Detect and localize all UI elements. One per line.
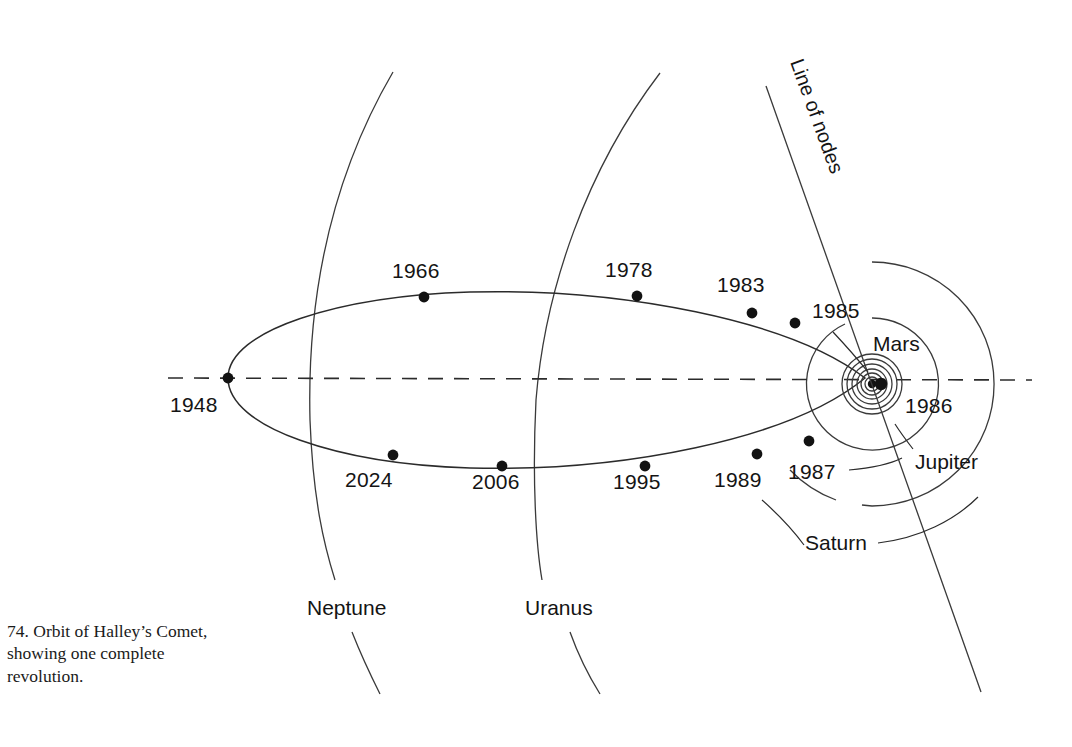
- figure-halley-orbit: 1948 1966 1978 1983 1985 1986 1987 1989 …: [0, 0, 1072, 747]
- comet-marker-1986: [875, 378, 887, 390]
- year-label-1966: 1966: [392, 259, 440, 282]
- leader-line-1987: [849, 458, 902, 470]
- year-label-1983: 1983: [717, 273, 765, 296]
- leader-line-1985: [833, 332, 868, 372]
- year-label-1948: 1948: [170, 393, 218, 416]
- comet-marker-1966: [419, 292, 430, 303]
- orbit-arc-uranus-lower: [570, 632, 600, 694]
- leader-line-1989: [762, 500, 804, 545]
- year-label-1987: 1987: [788, 460, 836, 483]
- comet-marker-1978: [632, 291, 643, 302]
- line-of-nodes-label: Line of nodes: [786, 56, 848, 176]
- year-label-2006: 2006: [472, 470, 520, 493]
- planet-label-jupiter: Jupiter: [915, 450, 978, 473]
- year-label-2024: 2024: [345, 468, 393, 491]
- orbit-arc-neptune: [310, 72, 393, 580]
- comet-marker-1948: [223, 373, 234, 384]
- year-label-1995: 1995: [613, 470, 661, 493]
- planet-label-neptune: Neptune: [307, 596, 386, 619]
- planet-label-uranus: Uranus: [525, 596, 593, 619]
- year-label-1978: 1978: [605, 258, 653, 281]
- orbit-arc-neptune-lower: [352, 632, 380, 694]
- orbit-arc-uranus: [534, 73, 660, 580]
- year-label-1985: 1985: [812, 299, 860, 322]
- line-of-apsides: [168, 378, 1032, 380]
- planet-label-saturn: Saturn: [805, 531, 867, 554]
- caption-line-3: revolution.: [7, 665, 267, 687]
- comet-marker-1985: [790, 318, 801, 329]
- line-of-nodes: [766, 86, 981, 692]
- caption-line-1: 74. Orbit of Halley’s Comet,: [7, 620, 267, 642]
- comet-marker-1983: [747, 308, 758, 319]
- caption-line-2: showing one complete: [7, 642, 267, 664]
- year-label-1986: 1986: [905, 394, 953, 417]
- comet-marker-1987: [804, 436, 815, 447]
- planet-label-mars: Mars: [873, 332, 920, 355]
- year-label-1989: 1989: [714, 468, 762, 491]
- comet-marker-2024: [388, 450, 399, 461]
- comet-marker-1989: [752, 449, 763, 460]
- figure-caption: 74. Orbit of Halley’s Comet, showing one…: [7, 620, 267, 687]
